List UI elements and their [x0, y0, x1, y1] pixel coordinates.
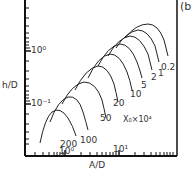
xtick-label-0: 10⁰ [59, 146, 74, 156]
ytick-label-1: 10⁻¹ [31, 98, 51, 108]
legend-title: X₀×10⁴ [123, 115, 152, 124]
x-axis-label: A/D [89, 160, 105, 170]
y-axis-label: h/D [2, 80, 18, 90]
label-0.2: 0.2 [161, 62, 175, 72]
curve-20 [75, 66, 118, 102]
curves [40, 24, 168, 143]
label-50: 50 [100, 113, 112, 123]
curve-5 [98, 44, 142, 78]
label-2: 2 [151, 72, 157, 82]
panel-label: (b [180, 0, 191, 13]
label-10: 10 [130, 89, 142, 99]
ytick-label-0: 10⁰ [31, 45, 46, 55]
xtick-label-1: 10¹ [113, 144, 128, 154]
curve-2 [108, 36, 152, 70]
label-20: 20 [113, 98, 125, 108]
curve-1 [116, 30, 159, 62]
label-100: 100 [80, 135, 97, 145]
chart: 200 100 50 20 10 5 2 1 0.2 X₀×10⁴ 10⁰ 10… [0, 0, 195, 171]
label-5: 5 [141, 80, 147, 90]
curve-10 [88, 54, 132, 90]
curve-100 [50, 97, 88, 130]
